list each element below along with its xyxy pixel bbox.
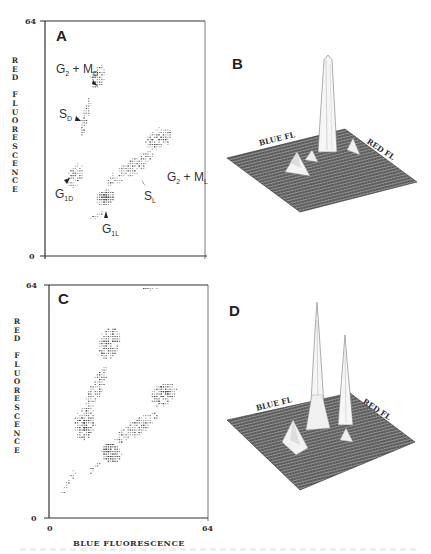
- figure-caption-cutoff: [20, 548, 420, 551]
- panel-d-letter: D: [229, 302, 240, 319]
- panel-d-surface: [0, 0, 431, 554]
